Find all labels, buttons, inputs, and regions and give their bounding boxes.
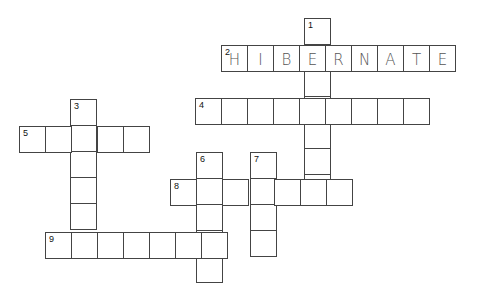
crossword-cell[interactable] bbox=[201, 232, 228, 259]
clue-number: 3 bbox=[74, 101, 79, 111]
crossword-cell[interactable] bbox=[70, 177, 97, 204]
cell-letter: A bbox=[378, 51, 403, 69]
crossword-cell[interactable] bbox=[70, 151, 97, 178]
crossword-cell[interactable] bbox=[97, 126, 124, 153]
crossword-cell[interactable] bbox=[247, 98, 274, 125]
crossword-cell[interactable] bbox=[274, 179, 301, 206]
crossword-cell[interactable] bbox=[71, 232, 98, 259]
crossword-cell[interactable] bbox=[221, 98, 248, 125]
crossword-cell[interactable] bbox=[97, 232, 124, 259]
cell-letter: E bbox=[430, 51, 455, 69]
crossword-cell[interactable] bbox=[273, 98, 300, 125]
clue-number: 6 bbox=[200, 154, 205, 164]
crossword-cell[interactable]: 1 bbox=[304, 18, 331, 45]
crossword-board: 12HIBERNATE3456789 bbox=[0, 0, 479, 291]
crossword-cell[interactable] bbox=[196, 204, 223, 231]
crossword-cell[interactable]: 8 bbox=[170, 179, 197, 206]
crossword-cell[interactable]: 4 bbox=[195, 98, 222, 125]
crossword-cell[interactable] bbox=[300, 179, 327, 206]
cell-letter: T bbox=[404, 51, 429, 69]
crossword-cell[interactable]: R bbox=[325, 45, 352, 72]
crossword-cell[interactable] bbox=[175, 232, 202, 259]
cell-letter: H bbox=[222, 51, 247, 69]
crossword-cell[interactable] bbox=[304, 148, 331, 175]
crossword-cell[interactable]: 2H bbox=[221, 45, 248, 72]
crossword-cell[interactable]: A bbox=[377, 45, 404, 72]
cell-letter: I bbox=[248, 51, 273, 69]
crossword-cell[interactable]: 3 bbox=[70, 99, 97, 126]
crossword-cell[interactable]: N bbox=[351, 45, 378, 72]
crossword-cell[interactable] bbox=[325, 98, 352, 125]
crossword-cell[interactable] bbox=[123, 126, 150, 153]
crossword-cell[interactable] bbox=[403, 98, 430, 125]
cell-letter: R bbox=[326, 51, 351, 69]
crossword-cell[interactable]: 5 bbox=[19, 126, 46, 153]
cell-letter: N bbox=[352, 51, 377, 69]
crossword-cell[interactable] bbox=[70, 125, 97, 152]
crossword-cell[interactable] bbox=[304, 70, 331, 97]
crossword-cell[interactable]: E bbox=[299, 45, 326, 72]
crossword-cell[interactable]: B bbox=[273, 45, 300, 72]
crossword-cell[interactable] bbox=[250, 178, 277, 205]
crossword-cell[interactable] bbox=[45, 126, 72, 153]
crossword-cell[interactable] bbox=[377, 98, 404, 125]
crossword-cell[interactable] bbox=[250, 230, 277, 257]
crossword-cell[interactable]: 6 bbox=[196, 152, 223, 179]
crossword-cell[interactable] bbox=[250, 204, 277, 231]
crossword-cell[interactable] bbox=[123, 232, 150, 259]
crossword-cell[interactable] bbox=[70, 203, 97, 230]
crossword-cell[interactable]: 7 bbox=[250, 152, 277, 179]
clue-number: 8 bbox=[174, 181, 179, 191]
crossword-cell[interactable] bbox=[149, 232, 176, 259]
crossword-cell[interactable] bbox=[222, 179, 249, 206]
crossword-cell[interactable] bbox=[351, 98, 378, 125]
clue-number: 5 bbox=[23, 128, 28, 138]
crossword-cell[interactable] bbox=[299, 98, 326, 125]
crossword-cell[interactable]: I bbox=[247, 45, 274, 72]
crossword-cell[interactable]: 9 bbox=[45, 232, 72, 259]
crossword-cell[interactable]: T bbox=[403, 45, 430, 72]
crossword-cell[interactable] bbox=[326, 179, 353, 206]
crossword-cell[interactable]: E bbox=[429, 45, 456, 72]
clue-number: 1 bbox=[308, 20, 313, 30]
clue-number: 7 bbox=[254, 154, 259, 164]
crossword-cell[interactable] bbox=[196, 256, 223, 283]
cell-letter: B bbox=[274, 51, 299, 69]
clue-number: 4 bbox=[199, 100, 204, 110]
cell-letter: E bbox=[300, 51, 325, 69]
clue-number: 9 bbox=[49, 234, 54, 244]
crossword-cell[interactable] bbox=[196, 178, 223, 205]
crossword-cell[interactable] bbox=[304, 122, 331, 149]
